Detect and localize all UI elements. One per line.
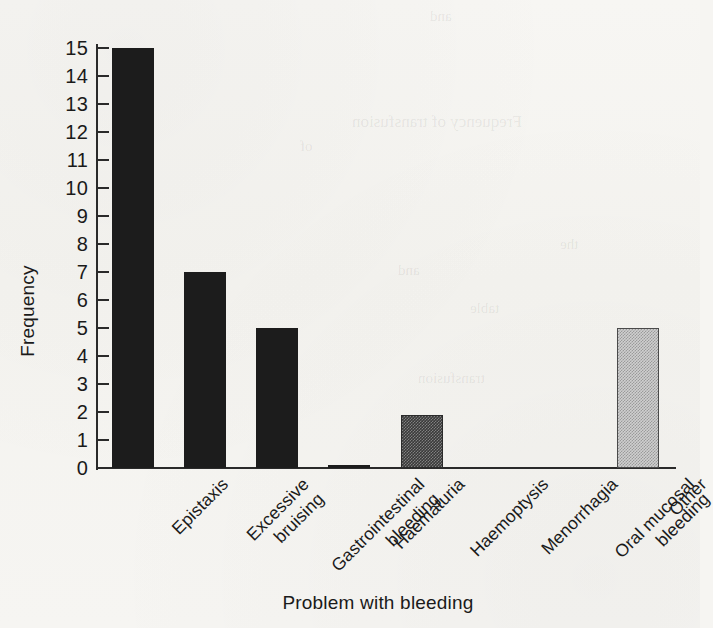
bar [617, 328, 659, 468]
bar [256, 328, 298, 468]
bar [184, 272, 226, 468]
y-axis-tick-label: 3 [77, 374, 88, 394]
y-axis-tick-label: 6 [77, 290, 88, 310]
y-axis-tick-label: 7 [77, 262, 88, 282]
y-axis-tick-label: 2 [77, 402, 88, 422]
y-axis-tick-label: 0 [77, 458, 88, 478]
y-axis-tick-label: 10 [65, 178, 88, 198]
bar [401, 415, 443, 468]
y-axis-tick-label: 1 [77, 430, 88, 450]
y-axis-tick-label: 14 [65, 66, 88, 86]
x-axis-category-label: Epistaxis [168, 474, 233, 539]
x-axis-category-label: Haemoptysis [466, 474, 553, 561]
y-axis-title: Frequency [17, 241, 39, 381]
y-axis-tick-label: 11 [67, 150, 88, 170]
y-axis-tick-label: 15 [65, 38, 88, 58]
y-axis-tick-label: 4 [77, 346, 88, 366]
x-axis-category-label: Gastrointestinal bleeding [327, 474, 443, 590]
y-axis-tick-label: 5 [77, 318, 88, 338]
bar [112, 48, 154, 468]
y-axis-tick-label: 13 [65, 94, 88, 114]
y-axis-tick-label: 9 [77, 206, 88, 226]
x-axis-title: Problem with bleeding [0, 592, 700, 614]
y-axis-tick-label: 12 [65, 122, 88, 142]
x-axis-category-label: Excessive bruising [243, 474, 329, 560]
plot-area [97, 48, 674, 468]
y-axis-tick-label: 8 [77, 234, 88, 254]
bar [328, 465, 370, 468]
